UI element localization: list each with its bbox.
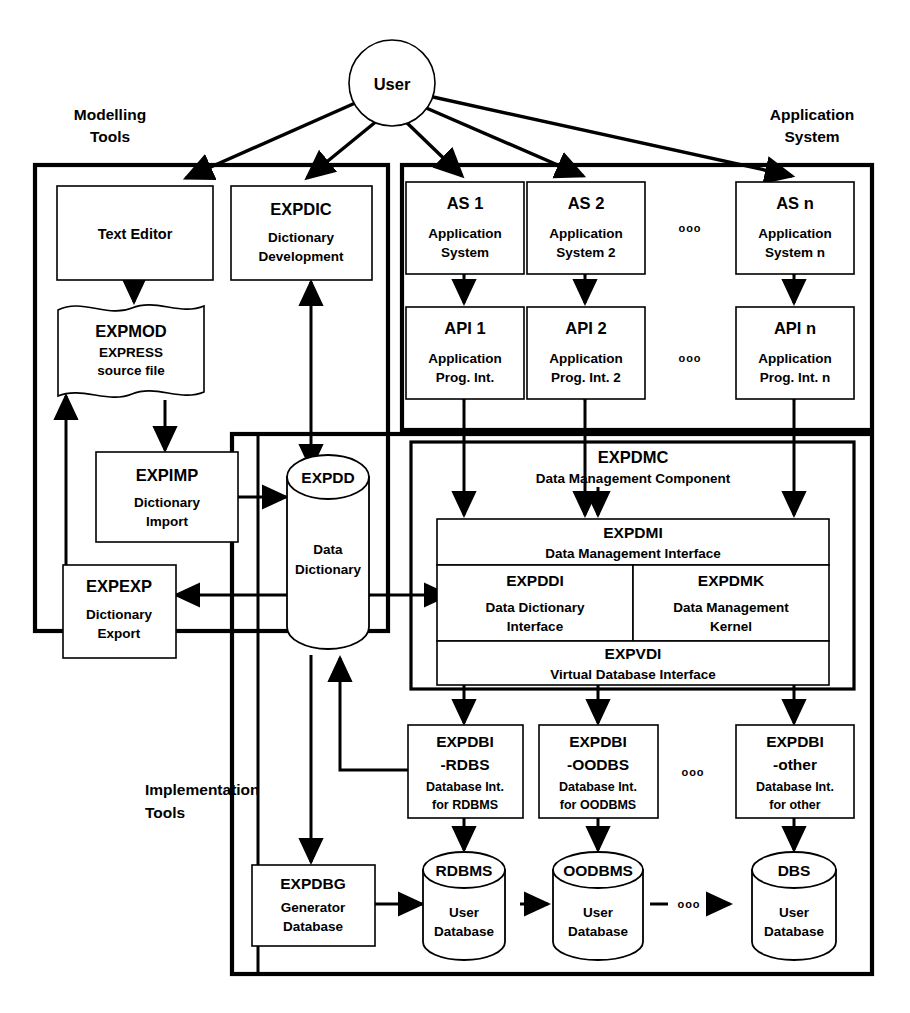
- expimp-sub1: Dictionary: [134, 495, 201, 510]
- expimp-sub2: Import: [146, 514, 189, 529]
- group-label-modelling-tools-line2: Tools: [90, 128, 130, 145]
- expdbi-row-ellipsis: ooo: [681, 766, 704, 778]
- expdmk-sub1: Data Management: [673, 600, 789, 615]
- text-editor-title: Text Editor: [98, 226, 173, 242]
- as1-title: AS 1: [447, 194, 484, 212]
- expdmk-title: EXPDMK: [698, 572, 765, 589]
- expdbi-oodbs-sub2: for OODBMS: [560, 798, 636, 812]
- expdd-sub2: Dictionary: [295, 562, 362, 577]
- asn-title: AS n: [776, 194, 814, 212]
- expdbi-oodbs-sub0: -OODBS: [567, 756, 629, 773]
- expmod-sub1: EXPRESS: [99, 345, 163, 360]
- expdbi-rdbs-sub0: -RDBS: [440, 756, 489, 773]
- dbs-sub1: User: [779, 905, 810, 920]
- expdbi-oodbs-title: EXPDBI: [569, 733, 627, 750]
- expdbi-rdbs-title: EXPDBI: [436, 733, 494, 750]
- expdd-sub1: Data: [313, 542, 343, 557]
- api2-sub2: Prog. Int. 2: [551, 370, 621, 385]
- api1-sub2: Prog. Int.: [436, 370, 495, 385]
- as1-sub1: Application: [428, 226, 502, 241]
- oodbms-sub1: User: [583, 905, 614, 920]
- as-row-ellipsis: ooo: [678, 222, 701, 234]
- expdbi-other-sub2: for other: [769, 798, 821, 812]
- oodbms-title: OODBMS: [563, 862, 633, 879]
- expdic-title: EXPDIC: [270, 200, 332, 218]
- oodbms-sub2: Database: [568, 924, 629, 939]
- diagram-canvas: Text Editor EXPDIC Dictionary Developmen…: [0, 0, 910, 1013]
- api2-title: API 2: [565, 319, 606, 337]
- api2-sub1: Application: [549, 351, 623, 366]
- dbs-title: DBS: [778, 862, 811, 879]
- expdbg-title: EXPDBG: [280, 875, 345, 892]
- connector-user-to-as1: [404, 120, 462, 176]
- as2-sub1: Application: [549, 226, 623, 241]
- api1-sub1: Application: [428, 351, 502, 366]
- expddi-sub1: Data Dictionary: [485, 600, 585, 615]
- api-row-ellipsis: ooo: [678, 352, 701, 364]
- expvdi-sub1: Virtual Database Interface: [550, 667, 716, 682]
- expdbi-oodbs-sub1: Database Int.: [559, 780, 637, 794]
- rdbms-title: RDBMS: [436, 862, 493, 879]
- group-label-application-system-line2: System: [784, 128, 839, 145]
- expdd-title: EXPDD: [301, 469, 354, 486]
- expdic-sub2: Development: [259, 249, 344, 264]
- expdbi-rdbs-sub2: for RDBMS: [432, 798, 498, 812]
- apin-sub1: Application: [758, 351, 832, 366]
- expimp-title: EXPIMP: [136, 466, 198, 484]
- expddi-title: EXPDDI: [506, 572, 564, 589]
- expdbg-sub2: Database: [283, 919, 344, 934]
- expmod-sub2: source file: [97, 363, 165, 378]
- expdmc-sub1: Data Management Component: [536, 471, 731, 486]
- expdmi-sub1: Data Management Interface: [545, 546, 721, 561]
- expdmc-title: EXPDMC: [598, 448, 669, 466]
- group-label-implementation-tools-line2: Tools: [145, 804, 185, 821]
- as2-title: AS 2: [568, 194, 605, 212]
- expdmi-title: EXPDMI: [603, 524, 662, 541]
- connector-user-to-expdic: [307, 120, 378, 178]
- apin-title: API n: [774, 319, 816, 337]
- apin-sub2: Prog. Int. n: [760, 370, 831, 385]
- expdbi-other-sub0: -other: [773, 756, 817, 773]
- connector-expexp-expmod: [66, 396, 96, 570]
- db-row-ellipsis: ooo: [677, 898, 700, 910]
- user-label: User: [374, 75, 411, 93]
- expexp-sub2: Export: [98, 626, 141, 641]
- asn-sub2: System n: [765, 245, 825, 260]
- expdbi-rdbs-sub1: Database Int.: [426, 780, 504, 794]
- group-label-modelling-tools-line1: Modelling: [74, 106, 146, 123]
- expddi-sub2: Interface: [507, 619, 564, 634]
- expdmk-sub2: Kernel: [710, 619, 752, 634]
- as1-sub2: System: [441, 245, 489, 260]
- asn-sub1: Application: [758, 226, 832, 241]
- api1-title: API 1: [444, 319, 485, 337]
- rdbms-sub1: User: [449, 905, 480, 920]
- as2-sub2: System 2: [556, 245, 615, 260]
- group-label-application-system-line1: Application: [770, 106, 854, 123]
- expdic-sub1: Dictionary: [268, 230, 335, 245]
- expdbi-other-title: EXPDBI: [766, 733, 824, 750]
- group-label-implementation-tools-line1: Implementation: [145, 781, 260, 798]
- expexp-sub1: Dictionary: [86, 607, 153, 622]
- rdbms-sub2: Database: [434, 924, 495, 939]
- dbs-sub2: Database: [764, 924, 825, 939]
- expdbi-other-sub1: Database Int.: [756, 780, 834, 794]
- expvdi-title: EXPVDI: [605, 645, 662, 662]
- expexp-title: EXPEXP: [86, 577, 152, 595]
- expmod-title: EXPMOD: [95, 322, 167, 340]
- expdbg-sub1: Generator: [281, 900, 346, 915]
